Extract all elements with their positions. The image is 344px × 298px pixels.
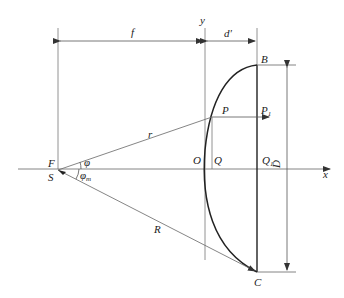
label-S: S [48,171,54,183]
label-F: F [47,157,55,169]
label-P1: P1 [260,104,271,118]
label-B: B [261,53,268,65]
label-phi: φ [84,156,90,168]
ray-r [58,117,212,170]
ray-R [58,170,255,271]
label-x-axis: x [322,168,328,180]
label-r: r [148,128,153,140]
label-y-axis: y [199,14,205,26]
label-C: C [254,276,262,288]
label-d-prime: d' [224,27,233,39]
label-P: P [221,104,229,116]
label-D: D [270,160,282,169]
label-phi-m: φm [80,169,91,183]
label-f: f [131,26,136,38]
angle-phi-arc [80,162,81,169]
label-O: O [193,154,201,166]
angle-phi-m-arc [76,169,79,179]
label-R: R [153,223,161,235]
lens-geometry-diagram: f d' y x B C P P1 Q Q1 O F S r R φ φm D [0,0,344,298]
source-arrow-icon [58,170,66,175]
label-Q: Q [214,154,222,166]
